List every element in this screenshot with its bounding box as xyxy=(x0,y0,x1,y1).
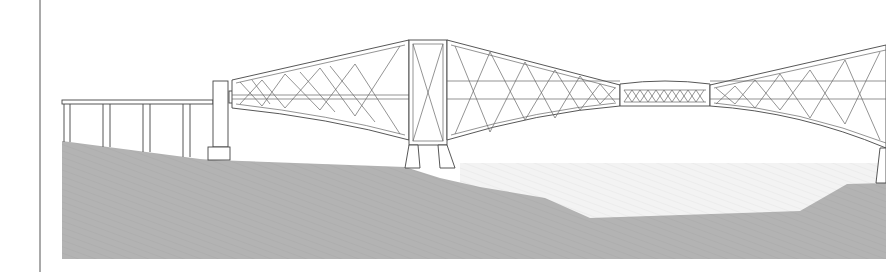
bridge-elevation-drawing xyxy=(0,0,886,272)
right-cantilever-arm xyxy=(710,45,886,183)
center-cantilever-arm xyxy=(447,40,620,140)
suspended-span xyxy=(620,81,710,106)
left-cantilever-arm xyxy=(232,40,409,140)
